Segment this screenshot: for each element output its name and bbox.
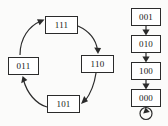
state-node-001[interactable]: 001	[131, 8, 161, 26]
state-node-111[interactable]: 111	[45, 16, 78, 34]
state-transition-diagram: 111 110 101 011 001 010 100 000	[0, 0, 168, 126]
state-node-010-label: 010	[139, 40, 153, 49]
edge-111-to-110	[78, 26, 101, 54]
state-node-000-label: 000	[139, 94, 153, 103]
state-node-100[interactable]: 100	[131, 62, 161, 80]
state-node-011[interactable]: 011	[8, 57, 39, 75]
state-node-011-label: 011	[17, 62, 31, 71]
edge-000-self-loop	[140, 108, 152, 120]
edge-011-to-111	[20, 19, 45, 55]
edge-101-to-011	[21, 76, 47, 107]
state-node-001-label: 001	[139, 13, 153, 22]
state-node-101-label: 101	[56, 100, 70, 109]
state-node-110-label: 110	[91, 60, 105, 69]
edge-110-to-101	[81, 73, 96, 104]
state-node-100-label: 100	[139, 67, 153, 76]
state-node-010[interactable]: 010	[131, 35, 161, 53]
state-node-101[interactable]: 101	[47, 95, 80, 113]
state-node-000[interactable]: 000	[131, 89, 161, 107]
state-node-111-label: 111	[55, 21, 68, 30]
state-node-110[interactable]: 110	[81, 55, 114, 73]
